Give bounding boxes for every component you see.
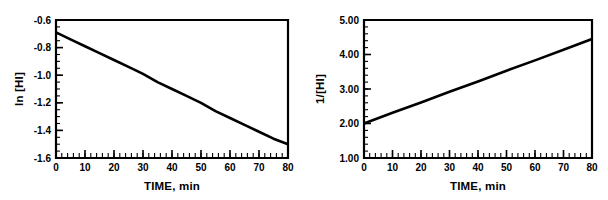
y-tick-label: -0.6: [34, 15, 52, 26]
figure-two-kinetics-plots: 01020304050607080 -0.6-0.8-1.0-1.2-1.4-1…: [0, 0, 608, 200]
y-tick-label: 5.00: [340, 15, 360, 26]
x-tick-label: 0: [361, 162, 367, 173]
x-tick-label: 20: [108, 162, 120, 173]
x-tick-labels-left: 01020304050607080: [53, 162, 294, 173]
plot-frame-right: [364, 20, 592, 158]
y-tick-label: -1.6: [34, 153, 52, 164]
y-tick-label: 3.00: [340, 84, 360, 95]
x-tick-label: 40: [472, 162, 484, 173]
chart-panel-right: 01020304050607080 1.002.003.004.005.00 T…: [304, 0, 608, 200]
x-tick-label: 60: [529, 162, 541, 173]
x-tick-label: 20: [415, 162, 427, 173]
y-tick-label: 1.00: [340, 153, 360, 164]
major-ticks-right: [364, 20, 592, 158]
x-tick-label: 0: [53, 162, 59, 173]
line-chart-ln-hi: 01020304050607080 -0.6-0.8-1.0-1.2-1.4-1…: [0, 0, 304, 200]
x-tick-label: 60: [224, 162, 236, 173]
data-series-ln-hi: [56, 32, 288, 144]
x-axis-title-left: TIME, min: [144, 180, 200, 192]
y-tick-labels-right: 1.002.003.004.005.00: [340, 15, 360, 164]
y-tick-label: -1.0: [34, 70, 52, 81]
y-tick-label: -1.4: [34, 125, 52, 136]
y-tick-label: 2.00: [340, 118, 360, 129]
x-tick-label: 30: [137, 162, 149, 173]
y-axis-title-right: 1/[HI]: [314, 74, 326, 104]
x-tick-label: 70: [253, 162, 265, 173]
y-axis-title-left: ln [HI]: [13, 72, 25, 106]
y-tick-label: -1.2: [34, 97, 52, 108]
x-tick-label: 50: [195, 162, 207, 173]
x-tick-label: 70: [558, 162, 570, 173]
x-tick-label: 10: [79, 162, 91, 173]
chart-panel-left: 01020304050607080 -0.6-0.8-1.0-1.2-1.4-1…: [0, 0, 304, 200]
y-tick-label: 4.00: [340, 49, 360, 60]
x-tick-label: 80: [282, 162, 294, 173]
minor-ticks-right: [364, 20, 592, 158]
x-tick-labels-right: 01020304050607080: [361, 162, 598, 173]
x-axis-title-right: TIME, min: [450, 180, 506, 192]
data-series-inverse-hi: [364, 39, 592, 124]
x-tick-label: 80: [586, 162, 598, 173]
x-tick-label: 40: [166, 162, 178, 173]
x-tick-label: 10: [387, 162, 399, 173]
x-tick-label: 50: [501, 162, 513, 173]
y-tick-labels-left: -0.6-0.8-1.0-1.2-1.4-1.6: [34, 15, 52, 164]
y-tick-label: -0.8: [34, 42, 52, 53]
line-chart-inverse-hi: 01020304050607080 1.002.003.004.005.00 T…: [304, 0, 608, 200]
x-tick-label: 30: [444, 162, 456, 173]
